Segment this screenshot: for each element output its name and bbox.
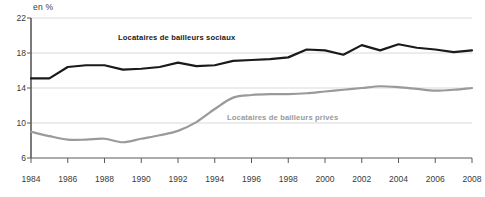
x-tick-label: 2004: [382, 175, 416, 184]
x-tick-label: 1996: [235, 175, 269, 184]
y-tick-label: 18: [4, 49, 26, 58]
x-tick-label: 1998: [271, 175, 305, 184]
x-tick-label: 1994: [198, 175, 232, 184]
x-tick-label: 2008: [455, 175, 485, 184]
x-tick-label: 1992: [161, 175, 195, 184]
x-tick-label: 1984: [14, 175, 48, 184]
x-tick-label: 2006: [418, 175, 452, 184]
x-tick-label: 1986: [51, 175, 85, 184]
x-tick-label: 2000: [308, 175, 342, 184]
y-axis-tick-labels: 22 18 14 10 6: [0, 0, 26, 197]
y-tick-label: 6: [4, 154, 26, 163]
chart-container: en %: [0, 0, 485, 197]
x-tick-label: 2002: [345, 175, 379, 184]
y-tick-label: 10: [4, 119, 26, 128]
series-label-locataires-sociaux: Locataires de bailleurs sociaux: [118, 34, 235, 42]
gridlines: [31, 18, 472, 123]
y-tick-label: 22: [4, 14, 26, 23]
x-axis-ticks: [31, 158, 472, 163]
y-tick-label: 14: [4, 84, 26, 93]
series-label-locataires-prives: Locataires de bailleurs privés: [227, 114, 338, 122]
series-line-locataires-sociaux: [31, 44, 472, 78]
x-tick-label: 1990: [124, 175, 158, 184]
x-tick-label: 1988: [88, 175, 122, 184]
chart-plot-area: [0, 0, 485, 197]
